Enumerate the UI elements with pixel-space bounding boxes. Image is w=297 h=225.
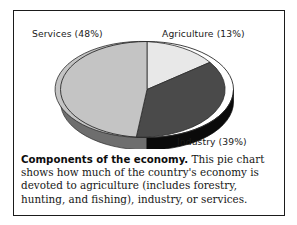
pie-label-agriculture: Agriculture (13%) [162,28,245,39]
figure-frame: Services (48%) Agriculture (13%) Industr… [13,10,285,216]
figure-caption-title: Components of the economy. [21,154,188,165]
figure-caption: Components of the economy. This pie char… [21,153,279,206]
pie-label-industry: Industry (39%) [177,136,247,147]
pie-label-services: Services (48%) [32,28,103,39]
pie-chart-area: Services (48%) Agriculture (13%) Industr… [14,11,284,149]
figure-root: Services (48%) Agriculture (13%) Industr… [0,0,297,225]
